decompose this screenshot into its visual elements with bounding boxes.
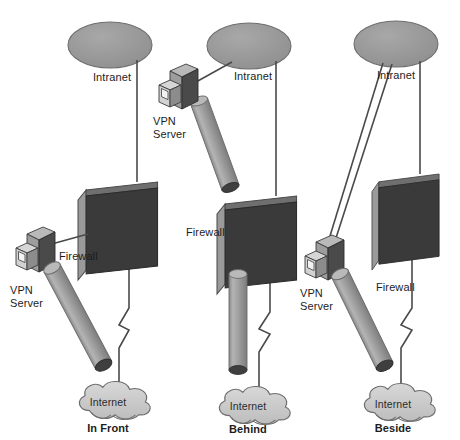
internet-label-beside: Internet xyxy=(364,398,422,411)
intranet-node-in-front xyxy=(68,22,152,68)
intranet-label-beside: Intranet xyxy=(368,69,424,82)
intranet-node-behind xyxy=(207,23,291,69)
vpn-server-label-line2-behind: Server xyxy=(153,128,186,141)
link-firewall-to-internet-beside xyxy=(401,252,412,388)
vpn-server-label-line2-in-front: Server xyxy=(10,297,43,310)
intranet-label-behind: Intranet xyxy=(225,70,281,83)
vpn-server-label-line1-behind: VPN xyxy=(153,115,176,128)
firewall-label-behind: Firewall xyxy=(186,226,225,239)
vpn-firewall-placement-diagram: Intranet Firewall VPN Server Internet In… xyxy=(0,0,460,440)
link-firewall-to-internet-in-front xyxy=(119,262,129,385)
intranet-node-beside xyxy=(354,21,438,67)
caption-beside: Beside xyxy=(359,422,427,435)
internet-label-behind: Internet xyxy=(219,400,277,413)
diagram-canvas xyxy=(0,0,460,440)
link-firewall-to-internet-behind xyxy=(259,272,270,390)
intranet-label-in-front: Intranet xyxy=(84,71,140,84)
vpn-server-node-behind xyxy=(159,64,198,109)
firewall-label-in-front: Firewall xyxy=(59,250,98,263)
vpn-server-label-line1-beside: VPN xyxy=(300,287,323,300)
firewall-label-beside: Firewall xyxy=(376,281,415,294)
caption-in-front: In Front xyxy=(74,422,142,435)
vpn-tunnel-lower-behind xyxy=(229,270,247,375)
firewall-node-in-front xyxy=(78,182,158,280)
panel-behind xyxy=(159,23,297,424)
caption-behind: Behind xyxy=(214,423,282,436)
vpn-server-label-line2-beside: Server xyxy=(300,300,333,313)
firewall-node-beside xyxy=(372,174,439,270)
vpn-tunnel-upper-behind xyxy=(189,94,240,195)
internet-label-in-front: Internet xyxy=(79,396,137,409)
vpn-server-label-line1-in-front: VPN xyxy=(10,284,33,297)
